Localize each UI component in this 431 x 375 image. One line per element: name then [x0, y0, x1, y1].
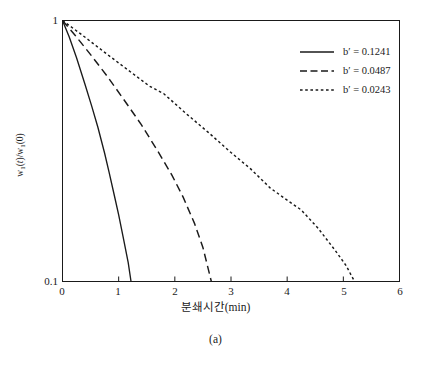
- x-tick-label-6: 6: [397, 286, 403, 297]
- legend-item-0: b′ = 0.1241: [300, 42, 418, 61]
- x-axis-title: 분쇄시간(min): [0, 298, 431, 314]
- data-series-line-0: [63, 21, 132, 282]
- x-tick-label-1: 1: [115, 286, 121, 297]
- y-tick-label-1: 1: [36, 15, 58, 26]
- x-tick-label-0: 0: [59, 286, 65, 297]
- x-tick-label-2: 2: [172, 286, 178, 297]
- y-axis-title: w1(t)/w1(0): [15, 133, 25, 176]
- legend-label-0: b′ = 0.1241: [343, 46, 391, 57]
- x-tick-label-4: 4: [284, 286, 290, 297]
- legend-item-2: b′ = 0.0243: [300, 80, 418, 99]
- x-axis-ticks: [63, 277, 400, 282]
- legend-label-2: b′ = 0.0243: [343, 84, 391, 95]
- legend-item-1: b′ = 0.0487: [300, 61, 418, 80]
- legend: b′ = 0.1241 b′ = 0.0487 b′ = 0.0243: [300, 42, 418, 99]
- figure-container: 1 0.1 0 1 2 3 4 5 6 분쇄시간(min) w1(t)/w1(0…: [0, 0, 431, 375]
- legend-label-1: b′ = 0.0487: [343, 65, 391, 76]
- legend-swatch-dashed: [300, 66, 334, 76]
- data-series-line-1: [63, 21, 212, 282]
- x-tick-label-5: 5: [341, 286, 347, 297]
- x-tick-label-3: 3: [228, 286, 234, 297]
- legend-swatch-dotted: [300, 85, 334, 95]
- figure-caption: (a): [0, 333, 431, 345]
- y-tick-label-0.1: 0.1: [30, 276, 58, 287]
- legend-swatch-solid: [300, 47, 334, 57]
- y-axis-title-wrapper: w1(t)/w1(0): [11, 100, 29, 210]
